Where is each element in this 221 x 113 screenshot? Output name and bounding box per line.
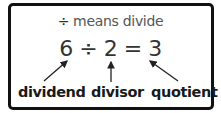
quotient-arrow [150, 61, 178, 81]
dividend-arrow [44, 61, 67, 81]
dividend-label: dividend [18, 84, 86, 100]
quotient-label: quotient [151, 84, 217, 100]
divisor-label: divisor [91, 84, 144, 100]
